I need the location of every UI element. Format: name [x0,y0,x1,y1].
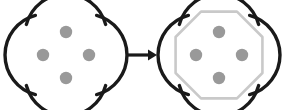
crossing-dot-top [60,26,72,38]
crossing-dot-right [236,49,248,61]
crossing-dot-left [190,49,202,61]
crossing-dot-bottom [60,72,72,84]
crossing-dot-bottom [213,72,225,84]
crossing-dot-top [213,26,225,38]
figure-container: Two symmetric four-arc knot diagrams joi… [0,0,286,110]
knot-transformation-figure [0,0,286,110]
crossing-dot-left [37,49,49,61]
crossing-dot-right [83,49,95,61]
